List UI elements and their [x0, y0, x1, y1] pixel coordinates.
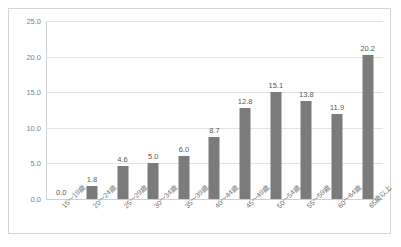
y-axis-tick-label: 25.0 [26, 17, 41, 26]
bar [240, 108, 251, 199]
x-axis-tick: 50～54歳 [260, 200, 291, 242]
x-axis-tick: 55～59歳 [291, 200, 322, 242]
bar-group: 4.6 [107, 21, 138, 199]
bar-group: 15.1 [260, 21, 291, 199]
bar-group: 12.8 [230, 21, 261, 199]
bar-value-label: 12.8 [238, 97, 253, 106]
bar-group: 1.8 [77, 21, 108, 199]
bar-value-label: 6.0 [179, 145, 189, 154]
y-axis-tick-label: 0.0 [31, 195, 41, 204]
x-axis-tick: 35～39歳 [169, 200, 200, 242]
x-axis-tick: 15～19歳 [46, 200, 77, 242]
x-axis-tick: 45～49歳 [230, 200, 261, 242]
bar [362, 55, 373, 199]
plot-area: 0.05.010.015.020.025.0 0.01.84.65.06.08.… [46, 21, 383, 199]
x-axis-tick: 20～24歳 [77, 200, 108, 242]
y-axis-tick-label: 15.0 [26, 88, 41, 97]
bar [178, 156, 189, 199]
x-axis-tick: 30～34歳 [138, 200, 169, 242]
bar [301, 101, 312, 199]
bar-value-label: 20.2 [360, 44, 375, 53]
bar [332, 114, 343, 199]
bar-value-label: 1.8 [87, 175, 97, 184]
bar-value-label: 4.6 [117, 155, 127, 164]
bar-series: 0.01.84.65.06.08.712.815.113.811.920.2 [46, 21, 383, 199]
bar-value-label: 8.7 [209, 126, 219, 135]
y-axis-tick-label: 5.0 [31, 159, 41, 168]
x-axis-tick: 60～64歳 [322, 200, 353, 242]
x-axis-tick: 25～29歳 [107, 200, 138, 242]
x-axis-tick: 40～44歳 [199, 200, 230, 242]
bar-group: 5.0 [138, 21, 169, 199]
bar-group: 13.8 [291, 21, 322, 199]
bar [148, 163, 159, 199]
bar-group: 20.2 [352, 21, 383, 199]
chart-container: 0.05.010.015.020.025.0 0.01.84.65.06.08.… [8, 8, 391, 234]
y-axis-tick-label: 10.0 [26, 123, 41, 132]
bar-value-label: 11.9 [330, 103, 344, 112]
bar-value-label: 15.1 [268, 81, 283, 90]
bar-group: 0.0 [46, 21, 77, 199]
bar-group: 11.9 [322, 21, 353, 199]
y-axis-tick-label: 20.0 [26, 52, 41, 61]
bar [270, 92, 281, 200]
bar-value-label: 13.8 [299, 90, 314, 99]
bar [117, 166, 128, 199]
bar-value-label: 5.0 [148, 152, 158, 161]
bar [209, 137, 220, 199]
bar-group: 8.7 [199, 21, 230, 199]
x-axis-labels: 15～19歳20～24歳25～29歳30～34歳35～39歳40～44歳45～4… [46, 200, 383, 242]
x-axis-tick: 65歳以上 [352, 200, 383, 242]
bar-group: 6.0 [169, 21, 200, 199]
